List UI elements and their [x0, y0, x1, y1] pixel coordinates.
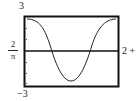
plot: [0, 0, 139, 101]
y-ticks: [26, 28, 27, 84]
cosine-curve: [27, 19, 116, 81]
